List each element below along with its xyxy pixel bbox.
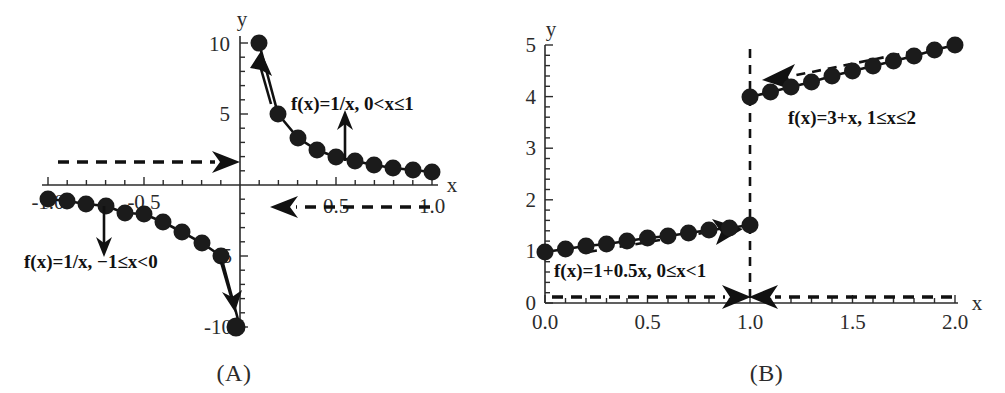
- panel-a: x y -1.0 -0.5 0.5 1.0 10 5 -5 -10: [0, 0, 500, 393]
- panel-a-ytick-0: 10: [209, 32, 230, 56]
- panel-b-x-axis-label: x: [972, 291, 983, 315]
- panel-a-annotation-negative: f(x)=1/x, −1≤x<0: [24, 251, 158, 273]
- panel-b-ytick-1: 1: [526, 239, 537, 263]
- panel-b-ytick-3: 3: [526, 136, 537, 160]
- panel-b-series-upper: [742, 37, 964, 106]
- panel-b-xtick-3: 1.5: [839, 310, 865, 334]
- panel-a-x-axis-label: x: [447, 173, 458, 197]
- panel-a-plot: x y -1.0 -0.5 0.5 1.0 10 5 -5 -10: [0, 0, 500, 393]
- panel-a-y-axis-label: y: [237, 7, 248, 31]
- panel-b-annotation-upper: f(x)=3+x, 1≤x≤2: [788, 107, 916, 129]
- panel-b-caption: (B): [514, 360, 1005, 387]
- panel-a-guide-left-arrow: [270, 196, 430, 218]
- panel-b-xtick-1: 0.5: [634, 310, 660, 334]
- panel-b-ytick-0: 0: [526, 291, 537, 315]
- panel-b-xtick-2: 1.0: [737, 310, 763, 334]
- panel-b-guide-lower-left-arrow: [749, 285, 952, 309]
- panel-a-annotation-positive: f(x)=1/x, 0<x≤1: [291, 93, 414, 115]
- panel-a-caption: (A): [0, 360, 484, 387]
- figure-root: x y -1.0 -0.5 0.5 1.0 10 5 -5 -10: [0, 0, 1005, 393]
- panel-b-ytick-4: 4: [526, 85, 537, 109]
- panel-a-ytick-1: 5: [220, 102, 231, 126]
- panel-b-guide-lower-right-arrow: [552, 285, 751, 309]
- panel-b-plot: x y 0.0 0.5 1.0 1.5 2.0 0 1 2 3 4 5: [500, 0, 1005, 393]
- panel-b-xtick-4: 2.0: [942, 310, 968, 334]
- panel-b-y-axis: [545, 45, 553, 303]
- panel-b-y-axis-label: y: [546, 17, 557, 41]
- panel-a-arrow-branch-negative-down: [221, 262, 242, 312]
- panel-b-ytick-2: 2: [526, 188, 537, 212]
- panel-b-annotation-lower: f(x)=1+0.5x, 0≤x<1: [554, 260, 706, 282]
- panel-b: x y 0.0 0.5 1.0 1.5 2.0 0 1 2 3 4 5: [500, 0, 1005, 393]
- panel-a-guide-right-arrow: [58, 151, 240, 173]
- panel-b-ytick-5: 5: [526, 33, 537, 57]
